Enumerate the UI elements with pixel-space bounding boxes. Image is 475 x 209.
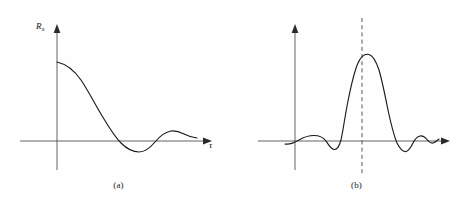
y-axis-label-main-a: R — [36, 21, 42, 31]
y-axis-arrow-b — [292, 24, 299, 33]
y-axis-label-a: Rx — [36, 21, 44, 31]
chart-panel-b: Ryx τ (b) — [238, 0, 475, 209]
y-axis-label-sub-a: x — [42, 25, 45, 32]
x-axis-arrow-b — [441, 137, 450, 144]
curve-autocorrelation-a — [57, 62, 197, 152]
y-axis-arrow-a — [54, 24, 61, 33]
crosscorrelation-plot-b — [238, 0, 475, 185]
chart-panel-a: Rx τ (a) — [0, 0, 237, 209]
figure-caption-a: (a) — [0, 180, 237, 190]
x-axis-label-a: τ — [209, 140, 212, 150]
figure-container: Rx τ (a) Ryx τ (b) — [0, 0, 475, 209]
figure-caption-b: (b) — [238, 180, 475, 190]
